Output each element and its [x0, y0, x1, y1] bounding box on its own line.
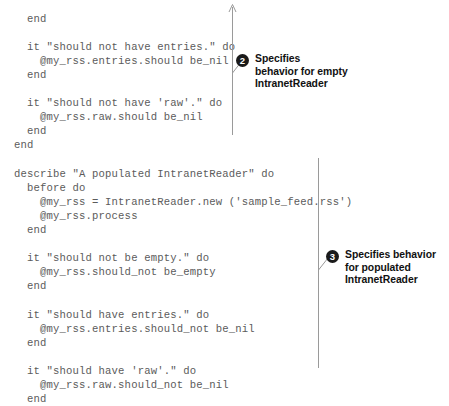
callout-marker-2: 2 — [236, 54, 249, 67]
code-line: it "should have 'raw'." do — [14, 364, 244, 378]
code-line: describe "A populated IntranetReader" do — [14, 167, 244, 181]
code-line: it "should not have entries." do — [14, 40, 244, 54]
code-line — [14, 237, 244, 251]
code-line — [14, 153, 244, 167]
code-line: end — [14, 12, 244, 26]
code-line — [14, 82, 244, 96]
code-line: it "should not have 'raw'." do — [14, 96, 244, 110]
code-line: @my_rss.entries.should_not be_nil — [14, 322, 244, 336]
code-line: @my_rss.should_not be_empty — [14, 265, 244, 279]
callout-empty-reader: 2 Specifies behavior for empty IntranetR… — [236, 53, 348, 91]
code-line — [14, 26, 244, 40]
code-line: end — [14, 223, 244, 237]
code-line: before do — [14, 181, 244, 195]
code-listing: end it "should not have entries." do @my… — [14, 12, 244, 406]
code-line: @my_rss = IntranetReader.new ('sample_fe… — [14, 195, 244, 209]
code-line: end — [14, 392, 244, 406]
code-line: end — [14, 138, 244, 152]
callout-text-3: Specifies behavior for populated Intrane… — [345, 249, 436, 287]
callout-text-2: Specifies behavior for empty IntranetRea… — [255, 53, 348, 91]
code-line: end — [14, 279, 244, 293]
code-line: end — [14, 124, 244, 138]
code-line — [14, 350, 244, 364]
code-line: @my_rss.process — [14, 209, 244, 223]
code-line: @my_rss.raw.should be_nil — [14, 110, 244, 124]
code-line: end — [14, 68, 244, 82]
callout-marker-3: 3 — [326, 250, 339, 263]
callout-populated-reader: 3 Specifies behavior for populated Intra… — [326, 249, 436, 287]
code-line: end — [14, 336, 244, 350]
code-line: it "should have entries." do — [14, 308, 244, 322]
code-line: @my_rss.raw.should_not be_nil — [14, 378, 244, 392]
code-line: @my_rss.entries.should be_nil — [14, 54, 244, 68]
code-line: it "should not be empty." do — [14, 251, 244, 265]
code-line — [14, 293, 244, 307]
